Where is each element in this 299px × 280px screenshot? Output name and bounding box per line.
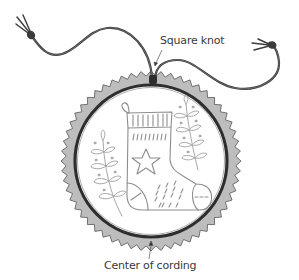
left-cord-end-knot [16,15,36,40]
hoop-ring [75,85,227,237]
center-of-cording-label: Center of cording [104,259,196,272]
hoop-ornament-diagram [0,0,299,280]
square-knot [149,75,157,84]
square-knot-label: Square knot [160,34,224,47]
right-cord-end-knot [252,39,276,50]
